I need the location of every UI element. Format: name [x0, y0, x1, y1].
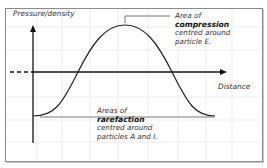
compression-leader [125, 16, 170, 23]
rarefaction-annotation: Areas of rarefaction centred around part… [97, 107, 158, 141]
rarefaction-line4: particles A and I. [97, 133, 158, 142]
x-axis-label: Distance [218, 83, 250, 92]
compression-line4: particle E. [175, 38, 230, 47]
compression-annotation: Area of compression centred around parti… [175, 12, 230, 46]
y-axis [30, 25, 36, 143]
y-axis-label: Pressure/density [13, 10, 75, 19]
